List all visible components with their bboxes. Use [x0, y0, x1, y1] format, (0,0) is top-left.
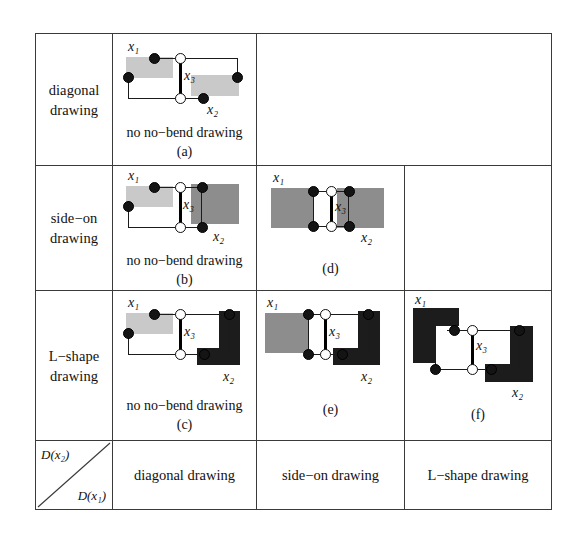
diagram-c-label-x3-text: x₃ [184, 324, 195, 339]
diagram-e: x₁ x₃ x₂ [257, 291, 404, 401]
diagram-c-label-x3: x₃ [184, 324, 195, 340]
caption-c-tag-text: (c) [177, 417, 193, 432]
diagram-a-label-x1: x₁ [128, 39, 139, 55]
diagram-b-label-x3-text: x₃ [183, 197, 194, 212]
col-label-side-on: side−on drawing [257, 441, 404, 509]
diagram-c-x3-edge [179, 314, 182, 354]
diagram-f-node-x2-bottom [486, 364, 497, 375]
diagram-c-label-x2-text: x₂ [223, 369, 234, 384]
diagram-c-x2-edge-v [229, 314, 230, 354]
diagram-b-label-x1-text: x₁ [128, 168, 139, 183]
diagram-a-label-x1-text: x₁ [128, 39, 139, 54]
caption-a-note: no no−bend drawing [113, 124, 256, 143]
cell-c: x₁ x₃ x₂ no no−bend drawing (c) [113, 291, 256, 440]
diagram-a-node-x1-right [149, 53, 160, 64]
caption-c-note-text: no no−bend drawing [127, 398, 243, 413]
caption-b-note: no no−bend drawing [113, 252, 256, 271]
diagram-e-x1-rect [265, 313, 308, 353]
diagram-f-x1-shape-vertical [413, 308, 436, 363]
diagram-e-node-x3-bottom [320, 349, 331, 360]
diagram-e-edge-h-top [307, 314, 370, 315]
caption-a-note-text: no no−bend drawing [127, 125, 243, 140]
diagram-b-node-x1-right [149, 182, 160, 193]
diagram-a-label-x3-text: x₃ [184, 68, 195, 83]
diagram-b-node-x3-bottom [175, 222, 186, 233]
diagram-b-node-x2-top [197, 182, 208, 193]
caption-d-tag: (d) [257, 260, 404, 279]
corner-col-axis-label: D(x₁) [78, 488, 106, 504]
cell-row1-col2-empty [257, 34, 404, 165]
diagram-c-node-x2-top [224, 309, 235, 320]
diagram-d-x1-rect [271, 188, 314, 228]
diagram-a-node-x2-right [232, 72, 243, 83]
diagram-c-node-x1-right [149, 309, 160, 320]
col-label-l-shape-text: L−shape drawing [427, 467, 528, 484]
diagram-e-x2-edge-v [368, 314, 369, 354]
grid-line-right [551, 33, 552, 510]
cell-f: x₁ x₃ x₂ (f) [405, 291, 551, 440]
caption-b-tag: (b) [113, 271, 256, 290]
diagram-e-label-x2-text: x₂ [361, 369, 372, 384]
diagram-a-label-x2-text: x₂ [207, 102, 218, 117]
row-label-side-on-text: side−on drawing [36, 208, 112, 248]
caption-c-tag: (c) [113, 416, 256, 435]
diagram-f-x1-shape-arm [434, 308, 459, 326]
diagram-b-node-x2-bottom [197, 222, 208, 233]
cell-a: x₁ x₃ x₂ no no−bend drawing (a) [113, 34, 256, 165]
diagram-f-node-x1-left [430, 364, 441, 375]
diagram-c-node-x3-top [175, 309, 186, 320]
caption-a-tag: (a) [113, 143, 256, 162]
diagram-c-node-x1-left [123, 328, 134, 339]
caption-a-tag-text: (a) [177, 144, 193, 159]
diagram-a: x₁ x₃ x₂ [113, 34, 256, 126]
diagram-d-label-x3-text: x₃ [335, 199, 346, 214]
caption-b-tag-text: (b) [176, 272, 192, 287]
col-label-diagonal-text: diagonal drawing [134, 467, 235, 484]
diagram-e-label-x2: x₂ [361, 369, 372, 385]
diagram-d-node-x1-bottom [308, 221, 319, 232]
diagram-f-x2-edge-v [519, 330, 520, 370]
diagram-d-node-x3-bottom [326, 221, 337, 232]
diagram-f-label-x2-text: x₂ [512, 385, 523, 400]
corner-header-cell: D(x₂) D(x₁) [36, 441, 112, 509]
row-label-diagonal-text: diagonal drawing [36, 80, 112, 120]
diagram-a-node-x3-top [175, 53, 186, 64]
row-label-l-shape: L−shape drawing [36, 291, 112, 440]
diagram-b-label-x1: x₁ [128, 168, 139, 184]
diagram-e-label-x3-text: x₃ [329, 324, 340, 339]
diagram-c-label-x2: x₂ [223, 369, 234, 385]
diagram-d-label-x3: x₃ [335, 199, 346, 215]
diagram-f-label-x3-text: x₃ [476, 338, 487, 353]
diagram-f-label-x1: x₁ [415, 292, 426, 308]
diagram-a-node-x1-left [123, 72, 134, 83]
diagram-b-label-x2: x₂ [213, 229, 224, 245]
diagram-d-node-x2-top [344, 186, 355, 197]
diagram-c-node-x2-bottom [199, 349, 210, 360]
diagram-e-node-x2-bottom [337, 349, 348, 360]
drawing-types-figure: diagonal drawing [0, 0, 580, 540]
cell-b: x₁ x₃ x₂ no no−bend drawing (b) [113, 166, 256, 290]
row-label-side-on: side−on drawing [36, 166, 112, 290]
corner-row-axis-label-text: D(x₂) [41, 447, 69, 462]
diagram-f-node-x1-right [449, 325, 460, 336]
diagram-b-x1-edge-h-bottom [128, 227, 180, 228]
diagram-b: x₁ x₃ x₂ [113, 166, 256, 254]
caption-d-tag-text: (d) [322, 261, 338, 276]
diagram-b-node-x3-top [175, 182, 186, 193]
cell-d: x₁ x₃ x₂ (d) [257, 166, 404, 290]
diagram-f-label-x2: x₂ [512, 385, 523, 401]
caption-f-tag-text: (f) [471, 407, 485, 422]
diagram-e-node-x1-top [303, 309, 314, 320]
diagram-a-label-x2: x₂ [207, 102, 218, 118]
diagram-e-label-x3: x₃ [329, 324, 340, 340]
diagram-c-node-x3-bottom [175, 349, 186, 360]
diagram-d-label-x1-text: x₁ [273, 170, 284, 185]
diagram-c-label-x1-text: x₁ [128, 295, 139, 310]
diagram-e-label-x1-text: x₁ [267, 295, 278, 310]
diagram-f-node-x3-bottom [467, 364, 478, 375]
cell-e: x₁ x₃ x₂ (e) [257, 291, 404, 440]
diagram-b-node-x1-left [123, 201, 134, 212]
caption-b-note-text: no no−bend drawing [127, 253, 243, 268]
diagram-d-label-x2-text: x₂ [361, 230, 372, 245]
diagram-f-label-x1-text: x₁ [415, 292, 426, 307]
